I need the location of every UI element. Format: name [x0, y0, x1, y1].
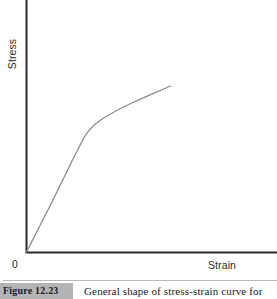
plot-svg — [0, 0, 277, 280]
figure-stress-strain: Stress Strain 0 Figure 12.23 General sha… — [0, 0, 277, 299]
y-axis-label: Stress — [6, 26, 18, 82]
x-axis-label: Strain — [208, 259, 236, 271]
plot-area: Stress Strain 0 — [0, 0, 277, 280]
figure-caption-text: General shape of stress-strain curve for — [84, 283, 277, 299]
origin-label: 0 — [12, 258, 18, 270]
figure-caption: Figure 12.23 General shape of stress-str… — [0, 280, 277, 299]
caption-divider — [3, 280, 277, 281]
stress-strain-curve — [27, 86, 171, 252]
figure-number-tag: Figure 12.23 — [0, 283, 73, 299]
